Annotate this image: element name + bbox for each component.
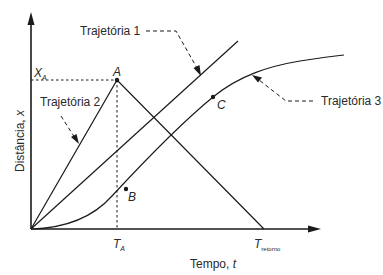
x-axis-title: Tempo, t [190, 257, 237, 271]
trajectory-1-label: Trajetória 1 [80, 24, 141, 38]
point-c-marker [211, 95, 215, 99]
trajectory-3-label: Trajetória 3 [321, 94, 382, 108]
axes [28, 12, 322, 233]
trajectory-3-leader [259, 80, 313, 101]
trajectory-2-callout: Trajetória 2 [40, 95, 101, 144]
trajectory-2-label: Trajetória 2 [40, 95, 101, 109]
trajectory-2-leader [61, 116, 75, 138]
trajectory-1-callout: Trajetória 1 [80, 24, 201, 76]
xa-label: XA [33, 66, 47, 81]
trajectory-3-callout: Trajetória 3 [252, 75, 382, 108]
trajectory-diagram: A B C Trajetória 1 Trajetória 2 Trajetór… [0, 0, 383, 275]
y-axis-arrow-icon [28, 12, 35, 25]
point-a-label: A [112, 65, 121, 79]
ta-label: TA [113, 237, 125, 252]
trajectory-1-arrow-icon [194, 65, 202, 76]
point-c-label: C [217, 98, 226, 112]
y-axis-title: Distância, x [13, 109, 27, 172]
trajectory-1-leader [146, 31, 197, 68]
tretorno-label: Tretorno [254, 237, 281, 252]
x-axis-arrow-icon [308, 226, 321, 233]
trajectory-2-arrow-icon [71, 134, 79, 144]
point-b-label: B [128, 190, 136, 204]
